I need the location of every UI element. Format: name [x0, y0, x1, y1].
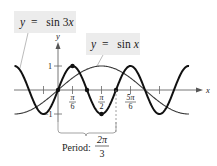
frac-num: 5π [126, 93, 135, 102]
sinx-label: y = sin x [86, 33, 140, 66]
period-brace [58, 122, 116, 136]
sinx-leader-line [97, 55, 103, 66]
period-label-text: Period: [62, 142, 91, 153]
period-frac-num: 2π [97, 134, 108, 145]
sine-graph: y = sin 3x y = sin x x y 1 −1 [0, 0, 217, 166]
y-axis-arrow-icon [56, 42, 61, 49]
x-axis-arrow-icon [196, 88, 203, 93]
label-y: y [19, 16, 26, 29]
marked-point [56, 88, 60, 92]
frac-num: π [99, 93, 104, 102]
marked-point [70, 64, 74, 68]
label-eq: = [31, 16, 38, 28]
period-frac-den: 3 [100, 148, 105, 159]
label-var: x [133, 38, 140, 50]
frac-num: π [70, 93, 75, 102]
x-tick-label-5pi6: 5π 6 [125, 93, 136, 111]
label-fn: sin [117, 38, 131, 50]
y-tick-label-1: 1 [48, 62, 52, 71]
frac-den: 6 [129, 102, 133, 111]
sin3x-label-text: y = sin 3x [19, 16, 74, 29]
y-axis-label: y [55, 31, 60, 41]
x-axis-label: x [205, 85, 210, 95]
frac-den: 2 [100, 102, 104, 111]
label-fn: sin 3 [46, 16, 68, 28]
x-tick-label-pi2: π 2 [98, 93, 105, 111]
label-y: y [90, 38, 97, 51]
sin3x-leader-line [20, 33, 28, 68]
period-label: Period: 2π 3 [62, 134, 109, 159]
sin3x-label: y = sin 3x [14, 11, 76, 68]
frac-den: 6 [71, 102, 75, 111]
label-eq: = [102, 38, 109, 50]
label-var: x [67, 16, 74, 28]
x-tick-label-pi6: π 6 [69, 93, 76, 111]
marked-point [85, 88, 89, 92]
marked-point [99, 112, 103, 116]
